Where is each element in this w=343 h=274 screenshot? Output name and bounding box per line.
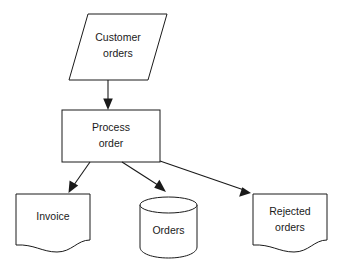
edge-customer-to-process[interactable] — [103, 80, 113, 110]
node-customer-orders-label-line2: orders — [103, 47, 133, 59]
node-invoice[interactable]: Invoice — [16, 194, 90, 252]
edge-process-to-invoice[interactable] — [69, 162, 91, 193]
node-customer-orders[interactable]: Customer orders — [69, 14, 167, 80]
cylinder-top-ellipse — [140, 197, 197, 213]
edge-process-to-orders-line — [122, 162, 161, 187]
node-invoice-label-line1: Invoice — [36, 210, 69, 222]
edge-process-to-orders-arrowhead — [154, 180, 166, 192]
edge-customer-to-process-arrowhead — [103, 99, 113, 111]
node-process-order-label-line1: Process — [92, 121, 130, 133]
edge-process-to-invoice-arrowhead — [69, 181, 79, 193]
node-customer-orders-label-line1: Customer — [95, 31, 141, 43]
node-process-order-label-line2: order — [99, 137, 124, 149]
node-orders-store[interactable]: Orders — [140, 197, 197, 258]
node-rejected-orders[interactable]: Rejected orders — [253, 194, 327, 252]
node-process-order[interactable]: Process order — [62, 110, 160, 162]
edge-process-to-invoice-line — [73, 162, 91, 187]
node-orders-store-label-line1: Orders — [152, 224, 184, 236]
document-shape — [16, 194, 90, 252]
edge-process-to-rejected-line — [160, 161, 244, 190]
node-rejected-orders-label-line1: Rejected — [269, 205, 311, 217]
edge-process-to-orders[interactable] — [122, 162, 166, 192]
node-rejected-orders-label-line2: orders — [275, 221, 305, 233]
edge-process-to-rejected[interactable] — [160, 161, 251, 197]
flowchart-diagram: Customer orders Process order — [0, 0, 343, 274]
